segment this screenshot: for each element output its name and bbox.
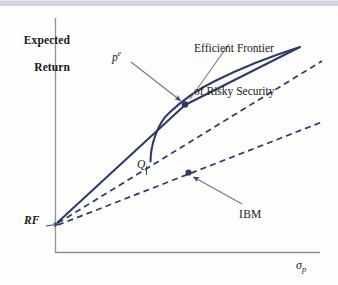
- rf-leader-line: [46, 224, 59, 226]
- ibm-point-marker: [185, 169, 191, 175]
- minimum-variance-label: Q: [137, 158, 145, 172]
- figure-canvas: Expected Return σp RF pe Q IBM Efficient…: [0, 0, 338, 285]
- ibm-label: IBM: [239, 208, 262, 222]
- tangency-point-marker: [182, 101, 189, 108]
- pe-leader-line: [131, 62, 181, 101]
- x-axis-subscript: p: [302, 264, 306, 274]
- tangency-portfolio-superscript: e: [118, 49, 121, 58]
- efficient-frontier-label-line2: of Risky Security: [194, 84, 275, 98]
- ibm-leader-line: [194, 177, 243, 204]
- efficient-frontier-label-line1: Efficient Frontier: [194, 41, 275, 55]
- y-axis-label: Expected Return: [4, 20, 70, 88]
- dashed-rays-group: [58, 61, 322, 225]
- risk-free-rate-label: RF: [24, 214, 40, 228]
- y-axis-label-line1: Expected: [24, 34, 70, 46]
- y-axis-label-line2: Return: [34, 61, 70, 73]
- tangency-portfolio-label: pe: [112, 50, 121, 64]
- x-axis-label: σp: [296, 258, 306, 274]
- efficient-frontier-label: Efficient Frontier of Risky Security: [194, 12, 275, 127]
- upper-dashed-ray: [58, 61, 322, 223]
